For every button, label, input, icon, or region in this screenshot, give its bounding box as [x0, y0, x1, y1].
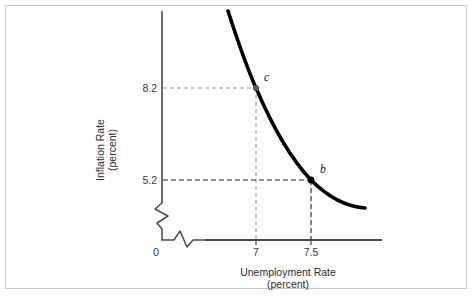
chart-screenshot: c b 8.2 5.2 7 7.5 0 Unemployment Rate (p… [0, 0, 476, 305]
data-point-label-b: b [320, 163, 326, 175]
y-tick-label-5-2: 5.2 [142, 174, 157, 186]
phillips-curve-figure: c b 8.2 5.2 7 7.5 0 Unemployment Rate (p… [0, 0, 476, 305]
x-tick-label-7-5: 7.5 [304, 246, 319, 258]
x-axis-break-zigzag-icon [162, 231, 205, 247]
x-tick-label-7: 7 [253, 246, 259, 258]
y-axis-break-zigzag-icon [155, 203, 168, 240]
y-axis-title-line1: Inflation Rate [94, 119, 106, 181]
origin-label: 0 [153, 246, 159, 258]
y-axis-title-line2: (percent) [106, 129, 118, 171]
data-point-c-marker [253, 85, 259, 91]
data-point-label-c: c [264, 71, 269, 83]
x-axis-title-line2: (percent) [267, 278, 309, 290]
data-point-b-marker [308, 177, 315, 184]
y-tick-label-8-2: 8.2 [142, 82, 157, 94]
phillips-curve-path [228, 11, 365, 208]
x-axis-title-line1: Unemployment Rate [240, 266, 336, 278]
